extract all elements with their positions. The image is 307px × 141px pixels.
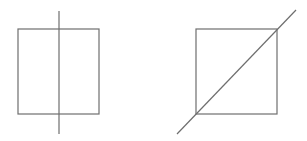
diagram-canvas (0, 0, 307, 141)
figure-square-diagonal-line (177, 10, 296, 134)
figure-square-vertical-line (18, 11, 99, 134)
